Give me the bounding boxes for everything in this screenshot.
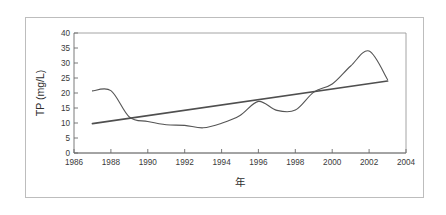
y-tick-label: 20 (61, 89, 71, 98)
plot-area-border (74, 33, 406, 153)
x-tick-label: 2000 (323, 158, 342, 167)
x-tick-label: 1992 (176, 158, 195, 167)
y-tick-label: 30 (61, 59, 71, 68)
y-tick-label: 35 (61, 44, 71, 53)
y-tick-label: 25 (61, 74, 71, 83)
x-tick-label: 2004 (397, 158, 416, 167)
x-tick-label: 1996 (249, 158, 268, 167)
x-tick-label: 2002 (360, 158, 379, 167)
y-tick-label: 15 (61, 104, 71, 113)
series-line-linear-trend (92, 81, 387, 124)
figure-frame: 40 35 30 25 20 15 10 5 0 (25, 17, 424, 198)
x-tick-label: 1994 (212, 158, 231, 167)
y-tick-label: 10 (61, 119, 71, 128)
y-tick-labels: 40 35 30 25 20 15 10 5 0 (61, 29, 71, 158)
y-axis-title: TP (mg/L) (34, 70, 46, 116)
x-tick-label: 1998 (286, 158, 305, 167)
y-tick-marks (74, 33, 78, 153)
x-tick-label: 1988 (102, 158, 121, 167)
x-tick-marks (74, 149, 406, 153)
y-tick-label: 0 (65, 149, 70, 158)
series-line-tp-measured (92, 51, 387, 128)
chart-canvas: 40 35 30 25 20 15 10 5 0 (26, 18, 425, 199)
x-tick-label: 1990 (139, 158, 158, 167)
x-tick-labels: 1986 1988 1990 1992 1994 1996 1998 2000 … (65, 158, 416, 167)
x-axis-title: 年 (235, 176, 245, 188)
figure-root: 40 35 30 25 20 15 10 5 0 (0, 0, 446, 215)
y-tick-label: 40 (61, 29, 71, 38)
x-tick-label: 1986 (65, 158, 84, 167)
y-tick-label: 5 (65, 134, 70, 143)
